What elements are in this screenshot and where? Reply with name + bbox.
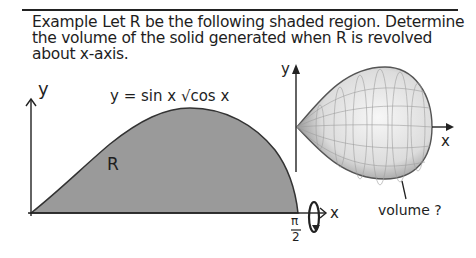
pi-label: π	[291, 214, 298, 228]
equation-label: y = sin x √cos x	[110, 87, 229, 105]
volume-pointer-line	[402, 181, 406, 199]
right-x-arrow-icon	[446, 123, 454, 131]
left-x-axis-label: x	[330, 204, 339, 222]
right-y-arrow-icon	[292, 64, 300, 74]
region-label-r: R	[107, 154, 119, 174]
left-plot	[26, 99, 326, 232]
right-x-axis-label: x	[441, 132, 450, 150]
solid-of-revolution	[297, 67, 432, 179]
right-plot	[292, 64, 454, 199]
right-y-axis-label: y	[281, 60, 290, 78]
two-label: 2	[292, 230, 300, 244]
volume-annotation: volume ?	[378, 202, 442, 218]
left-y-axis-label: y	[38, 78, 49, 99]
shaded-region-r	[31, 108, 298, 213]
diagram-canvas	[0, 0, 476, 258]
